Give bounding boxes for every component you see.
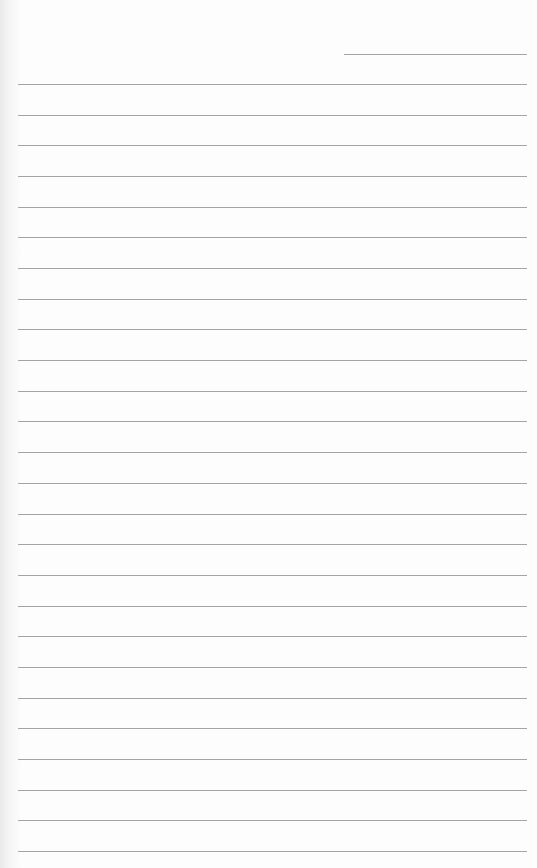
ruled-line [18, 421, 527, 422]
ruled-line [18, 207, 527, 208]
ruled-line [18, 452, 527, 453]
ruled-line [18, 636, 527, 637]
ruled-line [18, 268, 527, 269]
lined-paper-page [0, 0, 537, 868]
ruled-line [18, 391, 527, 392]
ruled-line [18, 115, 527, 116]
ruled-line [18, 299, 527, 300]
ruled-line [18, 698, 527, 699]
ruled-line [18, 728, 527, 729]
ruled-line [18, 820, 527, 821]
ruled-line [18, 759, 527, 760]
ruled-line [18, 360, 527, 361]
ruled-line [18, 145, 527, 146]
page-edge-shadow [0, 0, 22, 868]
ruled-line [18, 544, 527, 545]
ruled-line [18, 237, 527, 238]
ruled-line [18, 176, 527, 177]
ruled-line [18, 575, 527, 576]
ruled-line [18, 84, 527, 85]
ruled-line [18, 514, 527, 515]
ruled-line [18, 606, 527, 607]
ruled-line [18, 790, 527, 791]
header-date-line [344, 54, 527, 55]
ruled-line [18, 851, 527, 852]
ruled-line [18, 667, 527, 668]
ruled-line [18, 329, 527, 330]
ruled-line [18, 483, 527, 484]
